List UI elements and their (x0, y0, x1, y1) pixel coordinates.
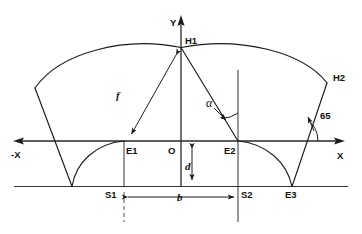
point-h2-label: H2 (333, 72, 345, 83)
f-dimension-line (132, 55, 177, 134)
point-e2-label: E2 (224, 145, 236, 156)
point-s1-label: S1 (105, 189, 117, 200)
f-dimension-label: f (116, 89, 121, 101)
d-dimension-label: d (185, 160, 191, 172)
point-s2-label: S2 (241, 189, 253, 200)
alpha-leader-line (214, 108, 226, 120)
h1-e2-chord (181, 48, 238, 142)
geometry-figure: f α 65 d b Y X -X H1 H2 E1 E2 E3 S1 S2 O (0, 0, 362, 234)
point-h1-label: H1 (185, 35, 198, 46)
origin-label: O (168, 145, 175, 156)
right-root-arc (238, 141, 292, 187)
x-axis-label: X (337, 150, 344, 161)
upper-right-arc (181, 44, 327, 83)
angle-65-label: 65 (320, 110, 331, 121)
y-axis-label: Y (170, 17, 177, 28)
point-e1-label: E1 (126, 145, 138, 156)
alpha-label: α (206, 96, 213, 110)
upper-left-arc (35, 44, 181, 88)
b-dimension-label: b (177, 191, 183, 203)
diagram-canvas: f α 65 d b Y X -X H1 H2 E1 E2 E3 S1 S2 O (0, 0, 362, 234)
right-flank-edge (292, 83, 327, 187)
left-root-arc (72, 141, 124, 187)
point-e3-label: E3 (285, 189, 297, 200)
x-axis-negative-label: -X (11, 149, 21, 160)
left-flank-edge (35, 88, 72, 187)
